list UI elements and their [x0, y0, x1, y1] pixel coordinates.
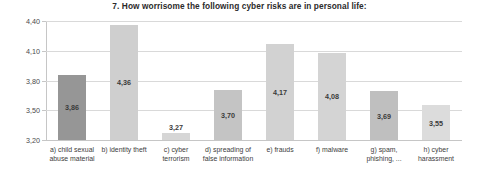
bar-value-label: 3,70: [221, 111, 235, 120]
bar: 4,08: [318, 53, 346, 140]
plot-area: 3,864,363,273,704,174,083,693,55: [46, 21, 462, 140]
gridline: [46, 140, 462, 141]
bar: 3,27: [162, 133, 190, 140]
bar: 3,86: [58, 75, 86, 140]
y-axis-tick-labels: 4,404,103,803,503,20: [0, 0, 40, 184]
y-axis-tick-mark: [42, 21, 46, 22]
category-label: g) spam, phishing, ...: [358, 145, 410, 164]
category-label: d) spreading of false information: [202, 145, 254, 164]
y-axis-tick-label: 4,40: [6, 17, 40, 26]
category-label: b) identity theft: [98, 145, 150, 154]
y-axis-tick-label: 4,10: [6, 46, 40, 55]
bar-value-label: 4,08: [325, 92, 339, 101]
bar: 3,55: [422, 105, 450, 140]
y-axis-tick-mark: [42, 140, 46, 141]
bar-value-label: 4,36: [117, 78, 131, 87]
bar-value-label: 3,55: [429, 119, 443, 128]
category-label: a) child sexual abuse material: [46, 145, 98, 164]
bar: 4,36: [110, 25, 138, 140]
y-axis-tick-mark: [42, 81, 46, 82]
y-axis-tick-label: 3,50: [6, 106, 40, 115]
bar: 3,69: [370, 91, 398, 140]
gridline: [46, 81, 462, 82]
bar-value-label: 4,17: [273, 88, 287, 97]
bar-value-label: 3,86: [65, 103, 79, 112]
bar: 3,70: [214, 90, 242, 140]
category-label: e) frauds: [254, 145, 306, 154]
y-axis-tick-label: 3,20: [6, 136, 40, 145]
category-label: f) malware: [306, 145, 358, 154]
bar: 4,17: [266, 44, 294, 140]
y-axis-tick-mark: [42, 51, 46, 52]
y-axis-tick-label: 3,80: [6, 76, 40, 85]
bar-chart: 7. How worrisome the following cyber ris…: [0, 0, 479, 184]
gridline: [46, 110, 462, 111]
gridline: [46, 51, 462, 52]
chart-title: 7. How worrisome the following cyber ris…: [0, 1, 479, 11]
category-label: h) cyber harassment: [410, 145, 462, 164]
category-label: c) cyber terrorism: [150, 145, 202, 164]
gridline: [46, 21, 462, 22]
bar-value-label: 3,69: [377, 112, 391, 121]
y-axis-tick-mark: [42, 110, 46, 111]
bar-value-label: 3,27: [169, 123, 183, 132]
x-axis-category-labels: a) child sexual abuse materialb) identit…: [46, 145, 462, 184]
